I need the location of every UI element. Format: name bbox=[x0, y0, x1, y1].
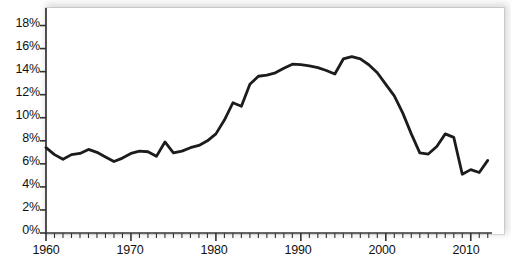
chart-figure: 18% 16% 14% 12% 10% 8% 6% 4% 2% 0% 1960 … bbox=[0, 0, 511, 267]
chart-plot-area bbox=[46, 14, 492, 233]
x-tick-label: 2000 bbox=[360, 244, 404, 257]
x-tick-label: 1990 bbox=[276, 244, 320, 257]
x-tick-label: 1980 bbox=[192, 244, 236, 257]
data-series-line bbox=[46, 57, 488, 175]
x-tick-label: 1970 bbox=[108, 244, 152, 257]
x-tick-label: 1960 bbox=[24, 244, 68, 257]
x-tick-label: 2010 bbox=[444, 244, 488, 257]
